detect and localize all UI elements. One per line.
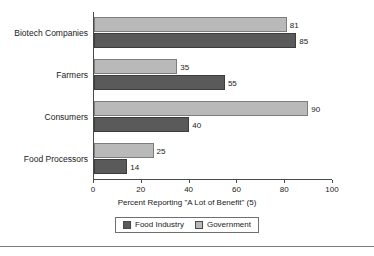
legend-swatch-icon <box>123 221 131 229</box>
x-tick-label: 20 <box>136 185 145 194</box>
bar-food-industry-farmers: 55 <box>94 75 225 90</box>
x-tick-mark <box>332 180 333 183</box>
bar-group-consumers: 90 40 <box>94 96 332 138</box>
bar-food-industry-biotech-companies: 85 <box>94 33 296 48</box>
legend-label: Food Industry <box>135 220 184 230</box>
x-tick-mark <box>284 180 285 183</box>
bar-value-label: 25 <box>157 146 166 155</box>
bar-chart-figure: Biotech Companies Farmers Consumers Food… <box>0 0 374 256</box>
bar-value-label: 55 <box>228 78 237 87</box>
bar-value-label: 90 <box>311 104 320 113</box>
bar-group-food-processors: 25 14 <box>94 138 332 180</box>
x-tick-mark <box>141 180 142 183</box>
bar-value-label: 81 <box>290 20 299 29</box>
bar-food-industry-food-processors: 14 <box>94 159 127 174</box>
legend-item-government[interactable]: Government <box>195 220 251 230</box>
bar-value-label: 40 <box>192 120 201 129</box>
bar-government-farmers: 35 <box>94 59 177 74</box>
plot-area: 81 85 35 55 90 40 25 <box>93 12 332 180</box>
x-tick-mark <box>189 180 190 183</box>
x-axis-ticks: 020406080100 <box>93 180 332 198</box>
bar-government-consumers: 90 <box>94 101 308 116</box>
bar-food-industry-consumers: 40 <box>94 117 189 132</box>
bar-value-label: 85 <box>299 36 308 45</box>
bar-value-label: 35 <box>180 62 189 71</box>
x-tick-label: 100 <box>325 185 338 194</box>
x-tick-label: 40 <box>184 185 193 194</box>
x-tick-mark <box>93 180 94 183</box>
x-axis-title: Percent Reporting "A Lot of Benefit" (5) <box>0 198 374 208</box>
bar-group-farmers: 35 55 <box>94 54 332 96</box>
category-label-farmers: Farmers <box>0 54 88 96</box>
legend-item-food-industry[interactable]: Food Industry <box>123 220 184 230</box>
legend-label: Government <box>207 220 251 230</box>
x-tick-label: 60 <box>232 185 241 194</box>
x-tick-mark <box>236 180 237 183</box>
x-tick-label: 0 <box>91 185 95 194</box>
bar-value-label: 14 <box>130 162 139 171</box>
chart-legend: Food Industry Government <box>115 217 259 233</box>
x-tick-label: 80 <box>280 185 289 194</box>
category-label-consumers: Consumers <box>0 96 88 138</box>
legend-swatch-icon <box>195 221 203 229</box>
category-axis-labels: Biotech Companies Farmers Consumers Food… <box>0 12 88 180</box>
category-label-biotech-companies: Biotech Companies <box>0 12 88 54</box>
category-label-food-processors: Food Processors <box>0 138 88 180</box>
bar-government-biotech-companies: 81 <box>94 17 287 32</box>
page-divider-rule <box>0 246 374 247</box>
bar-group-biotech-companies: 81 85 <box>94 12 332 54</box>
bar-government-food-processors: 25 <box>94 143 154 158</box>
